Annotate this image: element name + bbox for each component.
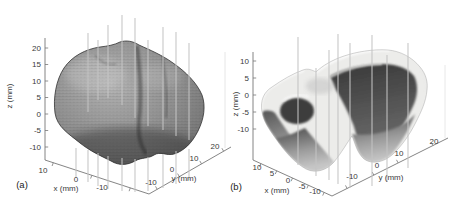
panel-a-z-tick: 20 (32, 44, 41, 53)
panel-b-x-tick: 5 (270, 169, 275, 178)
panel-b-x-tick: 0 (286, 176, 291, 185)
panel-a-z-tick: 15 (32, 60, 41, 69)
panel-a-y-tick: 20 (211, 142, 220, 151)
panel-a-z-tick: -5 (34, 126, 42, 135)
panel-a-y-tick: 0 (170, 165, 175, 174)
panel-a-z-tick: 0 (37, 110, 42, 119)
panel-b-label: (b) (230, 181, 242, 192)
panel-b-y-tick: 20 (430, 137, 439, 146)
panel-b-x-axis-label: x (mm) (265, 186, 290, 195)
panel-a-z-tick: 10 (32, 77, 41, 86)
panel-a-x-tick: 10 (39, 166, 48, 175)
panel-b-z-tick: -10 (237, 125, 249, 134)
panel-a-x-tick: -10 (96, 183, 108, 192)
panel-b-z-tick: 5 (245, 74, 250, 83)
panel-b-z-tick: -5 (242, 108, 250, 117)
rim-shading (306, 78, 334, 94)
panel-a-z-tick: -10 (29, 143, 41, 152)
panel-a-y-axis-label: y (mm) (172, 174, 197, 183)
figure-svg: 20 15 10 5 0 -5 -10 z (mm) 10 0 -10 x (m… (0, 0, 459, 207)
panel-a-y-tick: 10 (190, 154, 199, 163)
panel-a-z-tick: 5 (37, 93, 42, 102)
panel-b-x-tick: -5 (298, 182, 306, 191)
panel-a-x-tick: 0 (74, 175, 79, 184)
two-panel-3d-figure: 20 15 10 5 0 -5 -10 z (mm) 10 0 -10 x (m… (0, 0, 459, 207)
panel-a-y-tick: -10 (145, 178, 157, 187)
panel-a: 20 15 10 5 0 -5 -10 z (mm) 10 0 -10 x (m… (5, 15, 231, 194)
panel-b-z-tick: 10 (240, 57, 249, 66)
panel-b-z-tick: 0 (245, 91, 250, 100)
panel-b-y-tick: 0 (375, 161, 380, 170)
panel-a-z-axis-label: z (mm) (5, 83, 14, 108)
panel-b: 10 5 0 -5 -10 z (mm) 10 5 0 -5 -10 x (mm… (230, 34, 448, 196)
panel-a-label: (a) (16, 179, 28, 190)
crater (280, 98, 314, 124)
panel-b-z-axis-label: z (mm) (231, 91, 240, 116)
panel-a-x-axis-label: x (mm) (54, 184, 79, 193)
panel-b-y-axis-label: y (mm) (379, 173, 404, 182)
panel-b-x-tick: 10 (253, 163, 262, 172)
panel-b-y-tick: -10 (346, 172, 358, 181)
panel-b-x-tick: -10 (309, 187, 321, 196)
panel-b-y-tick: 10 (395, 149, 404, 158)
